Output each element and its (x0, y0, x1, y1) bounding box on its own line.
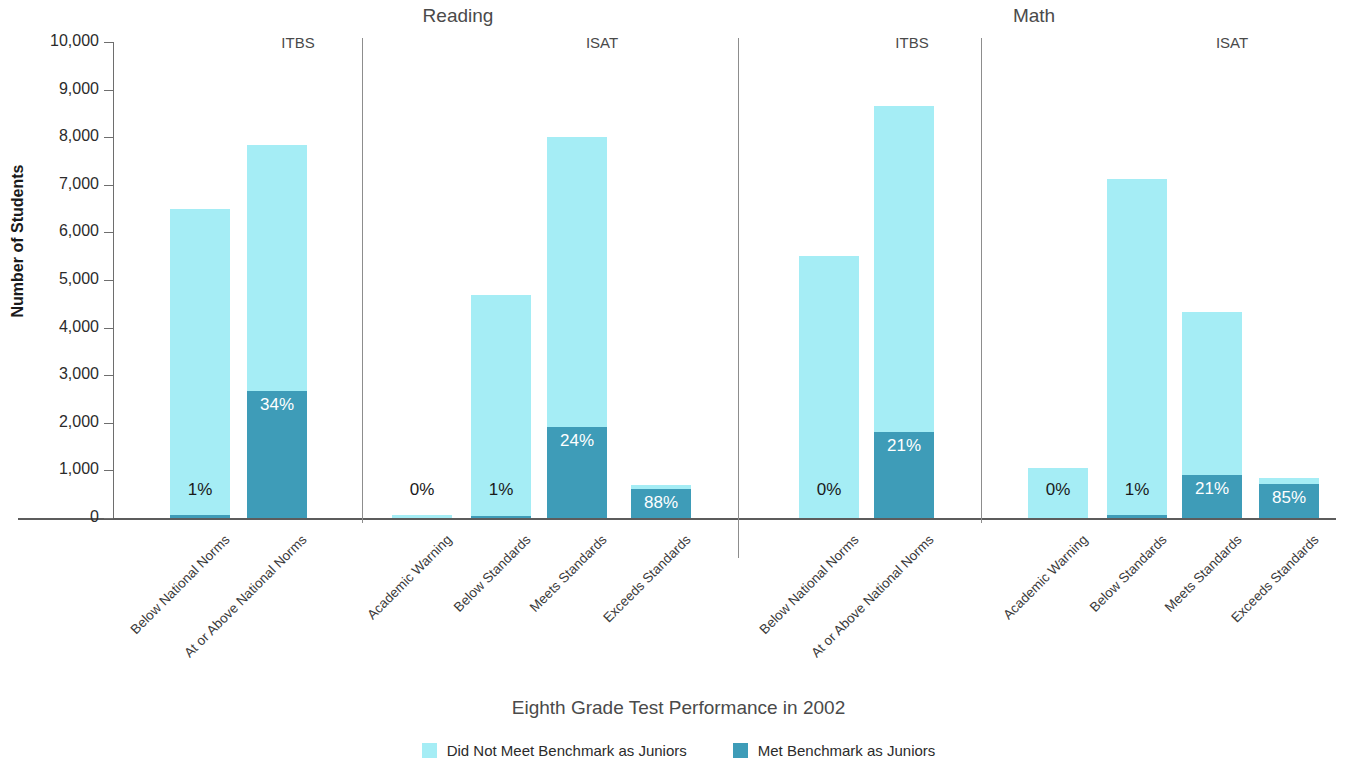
x-tick-label: Meets Standards (1071, 532, 1244, 705)
bar-percent-label: 0% (379, 480, 465, 500)
x-tick-label: Below National Norms (59, 532, 232, 705)
x-tick-label: Below Standards (996, 532, 1169, 705)
y-tick-label: 3,000 (29, 365, 99, 383)
bar-percent-label: 34% (234, 395, 320, 415)
y-tick-label: 2,000 (29, 413, 99, 431)
group-divider (981, 38, 982, 523)
y-tick-label: 10,000 (29, 32, 99, 50)
legend-item: Did Not Meet Benchmark as Juniors (422, 742, 687, 759)
x-tick-label: At or Above National Norms (136, 532, 309, 705)
x-axis-line (18, 518, 1336, 520)
x-tick-label: Meets Standards (436, 532, 609, 705)
y-axis-line (113, 42, 114, 518)
y-tick-mark (104, 470, 113, 471)
bar-segment-did-not-meet (1182, 312, 1242, 475)
bar-column (799, 256, 859, 518)
bar-percent-label: 0% (786, 480, 872, 500)
bar-column (874, 106, 934, 518)
chart-container: Number of Students 10,0009,0008,0007,000… (0, 0, 1357, 766)
y-tick-mark (104, 423, 113, 424)
x-tick-label: Exceeds Standards (1148, 532, 1321, 705)
group-divider (738, 38, 739, 558)
chart-legend: Did Not Meet Benchmark as JuniorsMet Ben… (0, 742, 1357, 759)
x-tick-label: Exceeds Standards (520, 532, 693, 705)
legend-item: Met Benchmark as Juniors (733, 742, 936, 759)
y-tick-mark (104, 375, 113, 376)
subgroup-title: ITBS (238, 34, 358, 51)
bar-segment-did-not-meet (247, 145, 307, 391)
x-tick-label: Academic Warning (917, 532, 1090, 705)
bar-segment-did-not-meet (547, 137, 607, 426)
bar-percent-label: 1% (157, 480, 243, 500)
bar-segment-did-not-meet (392, 515, 452, 518)
group-title-reading: Reading (258, 5, 658, 27)
bar-percent-label: 21% (861, 436, 947, 456)
bar-segment-did-not-meet (170, 209, 230, 515)
bar-segment-did-not-meet (799, 256, 859, 518)
bar-percent-label: 1% (1094, 480, 1180, 500)
y-tick-label: 1,000 (29, 460, 99, 478)
subgroup-title: ISAT (1172, 34, 1292, 51)
x-axis-title: Eighth Grade Test Performance in 2002 (0, 697, 1357, 719)
y-tick-mark (104, 90, 113, 91)
y-tick-label: 9,000 (29, 80, 99, 98)
subgroup-title: ISAT (542, 34, 662, 51)
x-tick-label: At or Above National Norms (763, 532, 936, 705)
group-title-math: Math (834, 5, 1234, 27)
x-tick-label: Below Standards (360, 532, 533, 705)
subgroup-title: ITBS (852, 34, 972, 51)
y-tick-label: 5,000 (29, 270, 99, 288)
y-tick-label: 6,000 (29, 222, 99, 240)
bar-percent-label: 88% (618, 493, 704, 513)
y-tick-mark (104, 280, 113, 281)
bar-column (547, 137, 607, 518)
y-tick-label: 8,000 (29, 127, 99, 145)
bar-segment-met (170, 515, 230, 518)
group-divider (362, 38, 363, 523)
bar-segment-did-not-meet (1107, 179, 1167, 515)
y-tick-mark (104, 232, 113, 233)
bar-segment-met (471, 516, 531, 518)
x-tick-label: Below National Norms (688, 532, 861, 705)
y-axis-title: Number of Students (9, 131, 27, 351)
legend-label: Met Benchmark as Juniors (758, 742, 936, 759)
y-tick-mark (104, 42, 113, 43)
legend-label: Did Not Meet Benchmark as Juniors (447, 742, 687, 759)
legend-swatch-icon (733, 743, 748, 758)
bar-percent-label: 21% (1169, 479, 1255, 499)
bar-segment-did-not-meet (874, 106, 934, 431)
y-tick-label: 4,000 (29, 318, 99, 336)
bar-column (1107, 179, 1167, 518)
y-tick-mark (104, 185, 113, 186)
bar-column (170, 209, 230, 518)
y-tick-mark (104, 518, 113, 519)
bar-percent-label: 0% (1015, 480, 1101, 500)
legend-swatch-icon (422, 743, 437, 758)
bar-percent-label: 1% (458, 480, 544, 500)
bar-column (247, 145, 307, 518)
bar-column (392, 515, 452, 518)
y-tick-mark (104, 328, 113, 329)
x-tick-label: Academic Warning (281, 532, 454, 705)
y-tick-label: 0 (29, 508, 99, 526)
y-tick-mark (104, 137, 113, 138)
bar-segment-met (1107, 515, 1167, 518)
bar-percent-label: 85% (1246, 488, 1332, 508)
bar-percent-label: 24% (534, 431, 620, 451)
y-tick-label: 7,000 (29, 175, 99, 193)
